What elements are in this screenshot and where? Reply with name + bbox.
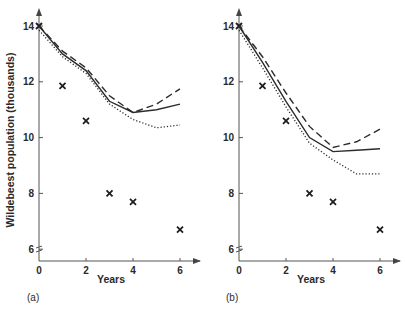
- x-tick-label: 4: [330, 265, 336, 276]
- y-tick-label: 10: [223, 132, 235, 143]
- x-tick-label: 0: [236, 265, 242, 276]
- y-tick-label: 8: [28, 188, 34, 199]
- x-tick-label: 6: [377, 265, 383, 276]
- y-tick-label: 6: [28, 244, 34, 255]
- x-tick-label: 6: [177, 265, 183, 276]
- y-tick-label: 8: [228, 188, 234, 199]
- data-point-cross-icon: [83, 118, 89, 124]
- panel-label-b: (b): [226, 292, 238, 303]
- series-line-dashed: [239, 26, 380, 147]
- y-tick-label: 14: [23, 21, 35, 32]
- data-point-cross-icon: [283, 118, 289, 124]
- x-tick-label: 2: [283, 265, 289, 276]
- y-axis-arrow-icon: [236, 8, 242, 16]
- panel-label-a: (a): [27, 292, 39, 303]
- x-tick-label: 0: [36, 265, 42, 276]
- panel-b: 681012140246: [223, 8, 401, 276]
- y-tick-label: 6: [228, 244, 234, 255]
- series-line-dashed: [39, 26, 180, 113]
- data-point-cross-icon: [107, 190, 113, 196]
- y-tick-label: 12: [223, 76, 235, 87]
- x-axis-title-a: Years: [97, 273, 125, 285]
- data-point-cross-icon: [130, 199, 136, 205]
- data-point-cross-icon: [377, 227, 383, 233]
- data-point-cross-icon: [307, 190, 313, 196]
- x-axis-arrow-icon: [193, 258, 201, 264]
- y-tick-label: 12: [23, 76, 35, 87]
- y-axis-arrow-icon: [36, 8, 42, 16]
- data-point-cross-icon: [260, 83, 266, 89]
- y-axis-title: Wildebeest population (thousands): [4, 53, 16, 228]
- panel-a: 681012140246: [23, 8, 201, 276]
- series-line-dotted: [239, 30, 380, 174]
- y-tick-label: 14: [223, 21, 235, 32]
- y-tick-label: 10: [23, 132, 35, 143]
- x-tick-label: 2: [83, 265, 89, 276]
- x-axis-title-b: Years: [297, 273, 325, 285]
- x-tick-label: 4: [130, 265, 136, 276]
- series-line-dotted: [39, 30, 180, 128]
- data-point-cross-icon: [177, 227, 183, 233]
- data-point-cross-icon: [60, 83, 66, 89]
- series-line-solid: [39, 26, 180, 113]
- data-point-cross-icon: [330, 199, 336, 205]
- x-axis-arrow-icon: [393, 258, 401, 264]
- figure: Wildebeest population (thousands) 681012…: [0, 0, 405, 310]
